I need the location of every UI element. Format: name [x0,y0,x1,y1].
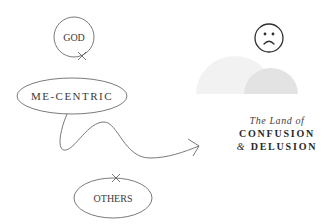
destination-line3: & DELUSION [237,140,318,153]
wavy-arrow [60,114,199,158]
others-label: OTHERS [94,193,133,204]
arrowhead-icon [188,139,199,156]
god-label: GOD [63,32,85,43]
ampersand: & [237,141,247,152]
destination-line3-word: DELUSION [246,141,317,152]
sad-face-icon [255,24,283,52]
destination-line1: The Land of [237,114,318,127]
diagram-canvas [0,0,328,224]
destination-line2: CONFUSION [237,127,318,140]
hills-illustration [196,56,298,94]
me-centric-label: ME-CENTRIC [31,90,113,102]
destination-caption: The Land of CONFUSION & DELUSION [237,114,318,153]
